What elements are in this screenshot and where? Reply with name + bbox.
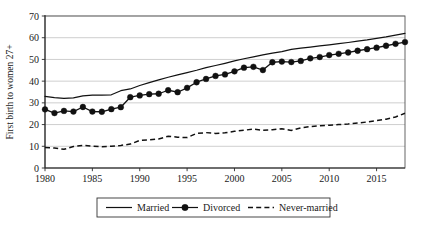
- y-tick-label-50: 50: [29, 54, 39, 65]
- series-marker-divorced: [307, 55, 313, 61]
- series-marker-divorced: [222, 72, 228, 78]
- x-tick-label-1985: 1985: [82, 173, 102, 184]
- x-tick-label-2015: 2015: [367, 173, 387, 184]
- series-marker-divorced: [175, 89, 181, 95]
- chart-canvas: 010203040506070 198019851990199520002005…: [0, 0, 423, 227]
- x-tick-label-2010: 2010: [319, 173, 339, 184]
- series-marker-divorced: [108, 106, 114, 112]
- legend-label-divorced: Divorced: [203, 202, 240, 213]
- series-marker-divorced: [269, 59, 275, 65]
- legend-marker-divorced: [182, 204, 188, 210]
- series-marker-divorced: [345, 50, 351, 56]
- series-marker-divorced: [241, 65, 247, 71]
- series-marker-divorced: [326, 52, 332, 58]
- series-marker-divorced: [203, 76, 209, 82]
- y-tick-labels: 010203040506070: [29, 11, 39, 174]
- series-marker-divorced: [165, 87, 171, 93]
- y-axis-label-text: First birth to women 27+: [5, 44, 15, 139]
- series-marker-divorced: [260, 67, 266, 73]
- series-marker-divorced: [80, 104, 86, 110]
- series-marker-divorced: [402, 39, 408, 45]
- y-axis: [42, 15, 45, 168]
- series-marker-divorced: [232, 68, 238, 74]
- series-marker-divorced: [393, 41, 399, 47]
- series-marker-divorced: [298, 58, 304, 64]
- chart-legend[interactable]: MarriedDivorcedNever-married: [97, 198, 338, 217]
- y-tick-label-10: 10: [29, 141, 39, 152]
- gridlines-group: [45, 16, 405, 146]
- series-marker-divorced: [118, 104, 124, 110]
- y-tick-label-0: 0: [34, 163, 39, 174]
- y-tick-label-40: 40: [29, 76, 39, 87]
- y-axis-label: First birth to women 27+: [5, 44, 15, 139]
- data-series-group: [42, 33, 408, 149]
- series-marker-divorced: [89, 109, 95, 115]
- x-tick-label-2005: 2005: [272, 173, 292, 184]
- legend-label-married: Married: [137, 202, 169, 213]
- series-marker-divorced: [137, 93, 143, 99]
- series-marker-divorced: [184, 85, 190, 91]
- series-marker-divorced: [99, 109, 105, 115]
- series-marker-divorced: [146, 91, 152, 97]
- series-marker-divorced: [374, 45, 380, 51]
- x-tick-label-1995: 1995: [177, 173, 197, 184]
- y-tick-label-70: 70: [29, 11, 39, 22]
- series-marker-divorced: [251, 64, 257, 70]
- x-tick-label-1990: 1990: [130, 173, 150, 184]
- series-marker-divorced: [127, 94, 133, 100]
- x-tick-label-1980: 1980: [35, 173, 55, 184]
- series-marker-divorced: [61, 108, 67, 114]
- series-marker-divorced: [42, 106, 48, 112]
- y-tick-label-60: 60: [29, 32, 39, 43]
- series-marker-divorced: [364, 46, 370, 52]
- plot-border: [45, 16, 405, 168]
- series-marker-divorced: [279, 59, 285, 65]
- series-marker-divorced: [71, 109, 77, 115]
- series-marker-divorced: [336, 51, 342, 57]
- y-tick-label-20: 20: [29, 119, 39, 130]
- series-marker-divorced: [317, 54, 323, 60]
- series-line-never-married: [45, 113, 405, 149]
- x-tick-labels: 19801985199019952000200520102015: [35, 173, 387, 184]
- x-axis: [45, 168, 405, 171]
- series-line-married: [45, 33, 405, 98]
- series-marker-divorced: [288, 59, 294, 65]
- chart-figure: 010203040506070 198019851990199520002005…: [0, 0, 423, 227]
- series-marker-divorced: [213, 73, 219, 79]
- legend-label-never-married: Never-married: [279, 202, 338, 213]
- plot-frame: [45, 16, 405, 168]
- series-marker-divorced: [355, 48, 361, 54]
- series-marker-divorced: [383, 43, 389, 49]
- series-marker-divorced: [52, 110, 58, 116]
- x-tick-label-2000: 2000: [224, 173, 244, 184]
- series-marker-divorced: [194, 79, 200, 85]
- y-tick-label-30: 30: [29, 97, 39, 108]
- series-marker-divorced: [156, 91, 162, 97]
